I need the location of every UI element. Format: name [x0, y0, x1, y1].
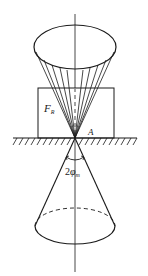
point-a-label: A: [87, 127, 94, 137]
friction-cone-diagram: FR A 2φm: [0, 0, 148, 276]
angle-label: 2φm: [65, 166, 81, 178]
